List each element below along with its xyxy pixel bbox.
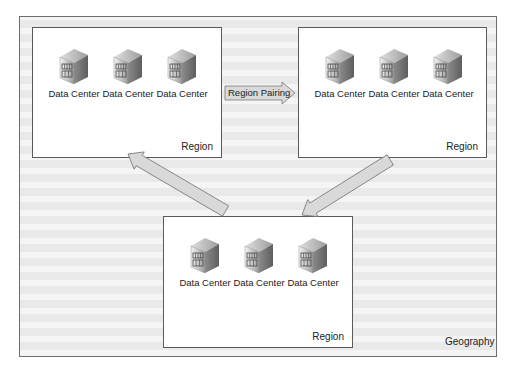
connector-arrows: [0, 0, 516, 375]
region-pairing-label: Region Pairing: [228, 87, 290, 98]
arrow-diagonal-icon: [123, 145, 231, 219]
geography-label: Geography: [445, 336, 494, 347]
arrow-diagonal-icon: [297, 151, 396, 223]
